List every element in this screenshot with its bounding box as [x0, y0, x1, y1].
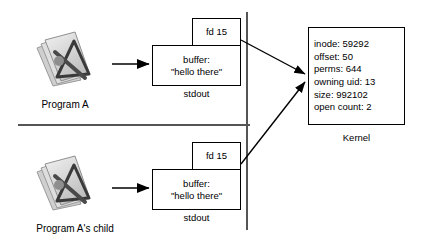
stdout-label-parent: stdout [152, 88, 241, 99]
kernel-field-perms: perms: 644 [314, 63, 362, 76]
kernel-field-size: size: 992102 [314, 89, 368, 102]
buffer-title-child: buffer: [183, 178, 210, 189]
user-kernel-boundary-divider [246, 12, 248, 230]
diagram-canvas: Program A fd 15 buffer: "hello there" st… [0, 0, 424, 248]
fd-box-parent: fd 15 [192, 18, 241, 46]
buffer-value-parent: "hello there" [171, 66, 222, 77]
arrow-parent-fd-to-kernel [241, 40, 305, 74]
buffer-box-child: buffer: "hello there" [152, 169, 241, 210]
program-a-child-label: Program A's child [0, 223, 150, 234]
kernel-label: Kernel [308, 132, 405, 143]
kernel-file-entry-box: inode: 59292 offset: 50 perms: 644 ownin… [308, 27, 405, 125]
arrow-child-fd-to-kernel [241, 82, 305, 164]
kernel-field-owning-uid: owning uid: 13 [314, 76, 375, 89]
buffer-value-child: "hello there" [171, 190, 222, 201]
buffer-box-parent: buffer: "hello there" [152, 45, 241, 86]
fd-label-child: fd 15 [206, 150, 227, 161]
fd-label-parent: fd 15 [206, 26, 227, 37]
stdout-label-child: stdout [152, 212, 241, 223]
program-a-label: Program A [0, 99, 130, 110]
kernel-field-offset: offset: 50 [314, 51, 353, 64]
program-document-icon [33, 152, 95, 214]
buffer-title-parent: buffer: [183, 54, 210, 65]
kernel-field-open-count: open count: 2 [314, 101, 372, 114]
parent-child-divider [18, 124, 250, 126]
kernel-field-inode: inode: 59292 [314, 38, 369, 51]
fd-box-child: fd 15 [192, 142, 241, 170]
program-document-icon [33, 28, 95, 90]
